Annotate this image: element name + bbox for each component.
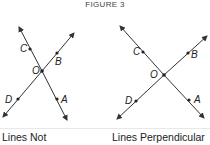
label-b: B [55, 56, 62, 67]
point-b [186, 51, 189, 54]
point-o [40, 69, 44, 73]
label-o: O [150, 69, 158, 80]
label-d: D [5, 94, 12, 105]
point-o [162, 73, 166, 77]
point-d [134, 99, 137, 102]
label-d: D [125, 95, 132, 106]
label-c: C [20, 43, 28, 54]
label-b: B [191, 49, 198, 60]
point-c [28, 47, 31, 50]
point-d [16, 97, 19, 100]
caption-not-perpendicular: Lines Not [2, 131, 46, 143]
caption-perpendicular: Lines Perpendicular [112, 131, 205, 143]
point-c [141, 50, 144, 53]
line-c-a [120, 26, 164, 75]
panel-not-perpendicular: C B O D A [3, 27, 74, 120]
label-a: A [60, 94, 68, 105]
panel-perpendicular: C B O D A [117, 26, 207, 119]
label-a: A [193, 94, 201, 105]
point-a [187, 98, 190, 101]
line-d-b [164, 36, 207, 75]
figure-diagram: C B O D A C B O D A [0, 0, 210, 145]
point-a [55, 97, 58, 100]
label-c: C [133, 46, 141, 57]
point-b [55, 51, 58, 54]
divider [0, 128, 210, 129]
label-o: O [32, 65, 40, 76]
